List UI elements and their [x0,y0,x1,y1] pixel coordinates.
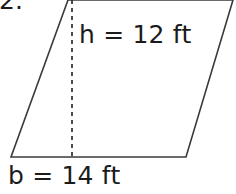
base-label: b = 14 ft [8,162,120,190]
height-label: h = 12 ft [79,21,191,49]
geometry-figure: 2. h = 12 ft b = 14 ft [0,0,236,194]
